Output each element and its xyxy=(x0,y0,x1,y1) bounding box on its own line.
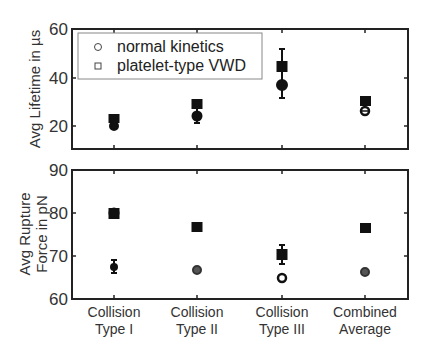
legend-label-normal: normal kinetics xyxy=(117,38,224,55)
bottom-panel: 90 80 70 60 Avg Rupture Force in pN xyxy=(16,161,408,337)
top-ytick-60: 60 xyxy=(49,20,68,39)
top-ytick-20: 20 xyxy=(49,117,68,136)
cat-4-line2: Average xyxy=(339,321,391,337)
bottom-axes-box xyxy=(72,170,408,299)
top-ylabel: Avg Lifetime in µs xyxy=(26,30,43,148)
cat-1-line1: Collision xyxy=(88,304,141,320)
legend-label-vwd: platelet-type VWD xyxy=(117,57,246,74)
cat-2-line1: Collision xyxy=(171,304,224,320)
cat-2-line2: Type II xyxy=(176,321,218,337)
cat-1-line2: Type I xyxy=(95,321,133,337)
bottom-ytick-80: 80 xyxy=(49,204,68,223)
legend: normal kinetics platelet-type VWD xyxy=(78,33,262,79)
cat-3-line2: Type III xyxy=(259,321,305,337)
top-panel: 60 40 20 Avg Lifetime in µs normal kinet… xyxy=(26,20,408,149)
bottom-ytick-90: 90 xyxy=(49,161,68,180)
bottom-ylabel-line2: Force in pN xyxy=(33,195,50,273)
bottom-ytick-60: 60 xyxy=(49,290,68,309)
x-category-labels: Collision Type I Collision Type II Colli… xyxy=(88,304,397,337)
top-ytick-40: 40 xyxy=(49,69,68,88)
figure: 60 40 20 Avg Lifetime in µs normal kinet… xyxy=(0,0,433,353)
cat-3-line1: Collision xyxy=(256,304,309,320)
bottom-ytick-70: 70 xyxy=(49,247,68,266)
cat-4-line1: Combined xyxy=(333,304,397,320)
bottom-ylabel-line1: Avg Rupture xyxy=(16,192,33,275)
marker-square xyxy=(110,115,119,122)
